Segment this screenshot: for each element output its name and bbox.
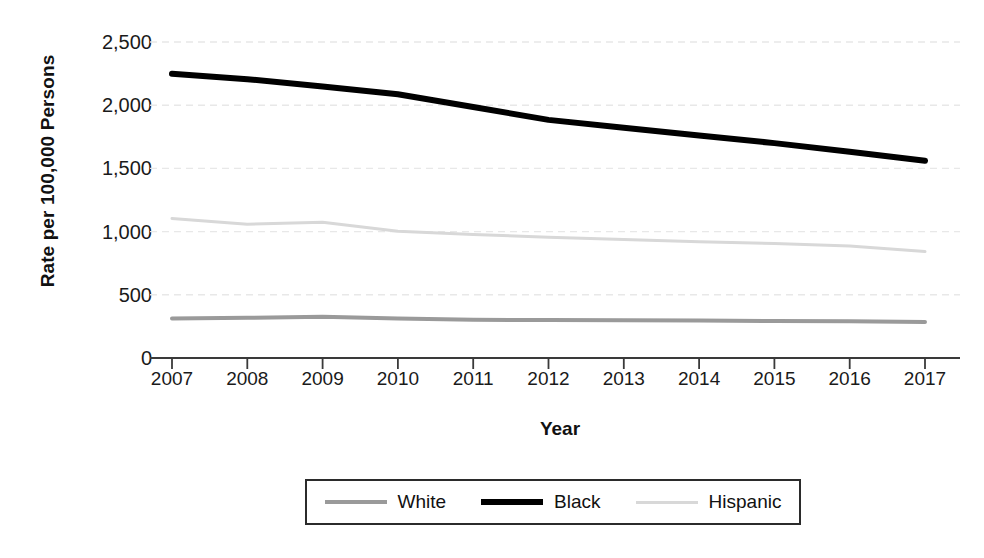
plot-area [0,0,984,470]
line-swatch-white-icon [325,500,387,504]
x-tick-label: 2015 [734,368,814,390]
legend-label: Black [554,491,600,513]
series-line-black [172,74,925,161]
series-lines [172,74,925,322]
legend-entry-black[interactable]: Black [481,491,600,513]
x-tick-label: 2008 [207,368,287,390]
x-tick-label: 2012 [509,368,589,390]
x-tick-label: 2016 [810,368,890,390]
line-chart-figure: Rate per 100,000 Persons 05001,0001,5002… [0,0,984,558]
legend-entry-white[interactable]: White [325,491,447,513]
x-tick-label: 2007 [132,368,212,390]
line-swatch-hispanic-icon [636,501,698,504]
x-tick-label: 2017 [885,368,965,390]
legend-entry-hispanic[interactable]: Hispanic [636,491,782,513]
chart-legend: WhiteBlackHispanic [305,479,801,525]
x-tick-label: 2010 [358,368,438,390]
x-axis-title: Year [160,418,960,440]
x-tick-label: 2011 [433,368,513,390]
x-tick-label: 2014 [659,368,739,390]
legend-label: Hispanic [709,491,782,513]
series-line-hispanic [172,218,925,251]
legend-label: White [398,491,447,513]
x-tick-label: 2009 [283,368,363,390]
x-tick-label: 2013 [584,368,664,390]
series-line-white [172,317,925,322]
line-swatch-black-icon [481,499,543,505]
